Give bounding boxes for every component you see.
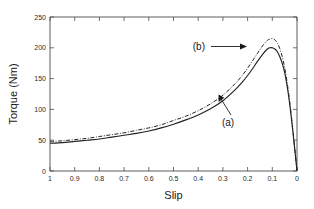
annotation-b: (b) <box>193 41 247 52</box>
y-tick-label: 200 <box>34 44 46 51</box>
curve-a-solid <box>50 48 297 171</box>
x-tick-label: 1 <box>48 175 52 182</box>
arrow-head-icon <box>240 44 247 50</box>
y-tick-label: 100 <box>34 106 46 113</box>
x-tick-label: 0.2 <box>243 175 253 182</box>
x-tick-label: 0.8 <box>95 175 105 182</box>
x-axis-ticks <box>50 17 297 171</box>
y-axis-title: Torque (Nm) <box>7 63 19 124</box>
torque-slip-chart: 0 50 100 150 200 250 <box>0 0 314 209</box>
y-tick-label: 50 <box>38 137 46 144</box>
x-tick-label: 0.4 <box>193 175 203 182</box>
x-axis-title: Slip <box>164 189 182 201</box>
axes-frame <box>50 17 297 171</box>
chart-figure: 0 50 100 150 200 250 <box>0 0 314 209</box>
annotation-a-label: (a) <box>222 117 234 128</box>
y-tick-label: 150 <box>34 75 46 82</box>
annotation-a: (a) <box>219 95 235 129</box>
y-axis-tick-labels: 0 50 100 150 200 250 <box>34 14 46 175</box>
x-axis-tick-labels: 1 0.9 0.8 0.7 0.6 0.5 0.4 0.3 0.2 0.1 0 <box>48 175 299 182</box>
y-axis-ticks <box>50 17 297 171</box>
data-curves <box>50 39 297 171</box>
x-tick-label: 0.5 <box>169 175 179 182</box>
x-tick-label: 0.1 <box>267 175 277 182</box>
y-tick-label: 0 <box>42 168 46 175</box>
x-tick-label: 0.7 <box>119 175 129 182</box>
annotation-b-label: (b) <box>193 41 205 52</box>
x-tick-label: 0.9 <box>70 175 80 182</box>
x-tick-label: 0.6 <box>144 175 154 182</box>
x-tick-label: 0 <box>295 175 299 182</box>
x-tick-label: 0.3 <box>218 175 228 182</box>
y-tick-label: 250 <box>34 14 46 21</box>
